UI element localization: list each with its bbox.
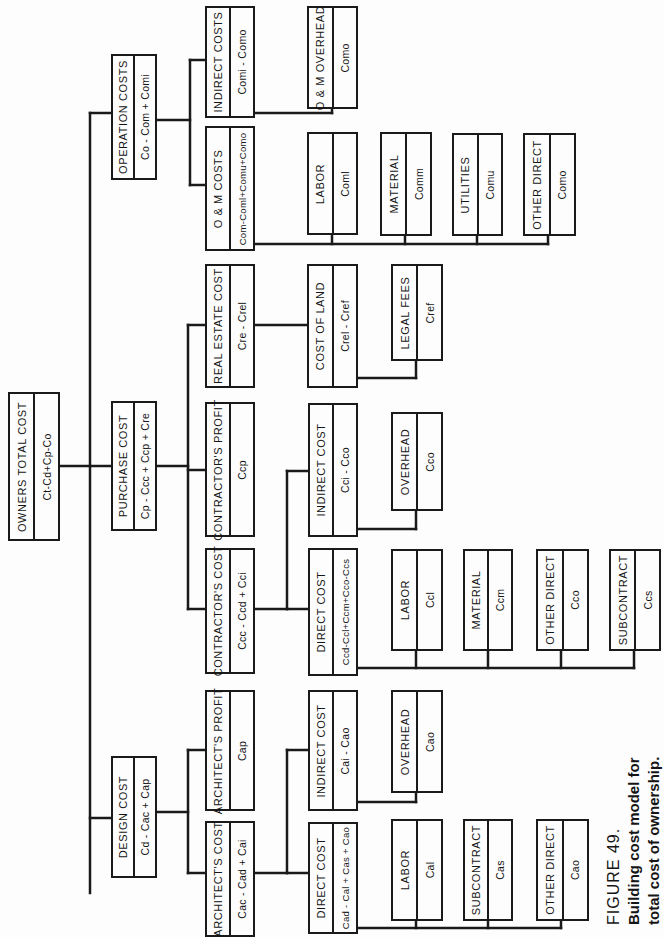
node-architects-profit: ARCHITECT'S PROFIT Cap — [205, 690, 255, 811]
node-real-estate-cost: REAL ESTATE COST Cre - Crel — [205, 264, 255, 388]
node-title: O & M COSTS — [212, 149, 224, 228]
node-formula: Ccl — [424, 592, 436, 608]
node-purchase-cost: PURCHASE COST Cp - Ccc + Ccp + Cre — [111, 401, 157, 531]
node-formula: Ccp — [236, 460, 248, 480]
node-title: LABOR — [399, 850, 411, 890]
node-formula: Como — [339, 43, 351, 72]
figure-caption: FIGURE 49. Building cost model for total… — [604, 757, 664, 925]
node-title: SUBCONTRACT — [470, 825, 482, 915]
node-title: ARCHITECT'S PROFIT — [212, 687, 224, 814]
node-formula: Comi - Como — [236, 29, 248, 94]
node-architects-cost: ARCHITECT'S COST Cac - Cad + Cai — [205, 821, 255, 937]
node-title: UTILITIES — [459, 156, 471, 213]
node-contractor-other-direct: OTHER DIRECT Cco — [536, 549, 589, 651]
node-formula: Cao — [424, 731, 436, 751]
node-formula: Ccc - Ccd + Cci — [236, 572, 248, 650]
node-om-costs: O & M COSTS Com-Coml+Comu+Como — [205, 126, 255, 251]
node-title: CONTRACTOR'S COST — [212, 546, 224, 677]
node-formula: Cp - Ccc + Ccp + Cre — [139, 413, 151, 519]
node-formula: Comu — [484, 170, 496, 199]
node-formula: Cci - Cco — [339, 447, 351, 493]
caption-line-1: Building cost model for — [624, 757, 644, 925]
node-title: OTHER DIRECT — [544, 555, 556, 645]
node-formula: Crel - Cref — [339, 300, 351, 352]
node-om-other-direct: OTHER DIRECT Como — [523, 133, 576, 236]
node-contractor-direct-cost: DIRECT COST Ccd-Ccl+Ccm+Cco-Ccs — [308, 548, 358, 676]
node-title: PURCHASE COST — [117, 415, 129, 518]
node-title: INDIRECT COST — [315, 423, 327, 516]
node-contractor-subcontract: SUBCONTRACT Ccs — [609, 549, 661, 651]
node-formula: Co - Com + Comi — [139, 74, 151, 160]
node-design-cost: DESIGN COST Cd - Cac + Cap — [111, 756, 157, 878]
node-contractor-labor: LABOR Ccl — [391, 549, 443, 651]
node-title: INDIRECT COST — [315, 704, 327, 797]
node-formula: Cas — [494, 860, 506, 880]
figure-number: FIGURE 49. — [604, 757, 624, 925]
node-title: OWNERS TOTAL COST — [16, 401, 28, 531]
node-formula: Como — [556, 170, 568, 199]
node-formula: Cac - Cad + Cai — [236, 839, 248, 919]
node-title: COST OF LAND — [314, 282, 326, 370]
node-formula: Ct-Cd+Cp-Co — [41, 433, 53, 500]
node-operation-indirect-costs: INDIRECT COSTS Comi - Como — [205, 6, 255, 118]
node-title: DIRECT COST — [315, 838, 327, 919]
node-om-labor: LABOR Coml — [307, 132, 358, 235]
node-formula: Cai - Cao — [339, 727, 351, 774]
node-formula: Cre - Crel — [236, 302, 248, 351]
node-title: OVERHEAD — [399, 428, 411, 495]
node-title: MATERIAL — [388, 155, 400, 214]
node-title: OTHER DIRECT — [531, 140, 543, 230]
node-title: OVERHEAD — [399, 708, 411, 775]
node-om-overhead: O & M OVERHEAD Como — [307, 6, 358, 109]
node-title: DESIGN COST — [117, 776, 129, 858]
node-architect-labor: LABOR Cal — [391, 819, 443, 921]
node-title: LABOR — [399, 580, 411, 620]
node-formula: Cco — [424, 452, 436, 472]
node-om-utilities: UTILITIES Comu — [452, 133, 503, 236]
node-legal-fees: LEGAL FEES Cref — [391, 264, 443, 361]
node-formula: Comm — [413, 168, 425, 200]
node-architect-overhead: OVERHEAD Cao — [391, 690, 443, 793]
node-formula: Cap — [236, 740, 248, 760]
node-owners-total-cost: OWNERS TOTAL COST Ct-Cd+Cp-Co — [8, 392, 60, 541]
node-title: OPERATION COSTS — [117, 60, 129, 174]
node-cost-of-land: COST OF LAND Crel - Cref — [307, 264, 358, 388]
node-title: O & M OVERHEAD — [314, 5, 326, 109]
node-title: INDIRECT COSTS — [212, 11, 224, 112]
node-formula: Ccs — [642, 591, 654, 610]
caption-line-2: total cost of ownership. — [644, 757, 664, 925]
node-formula: Cco — [569, 590, 581, 610]
node-contractor-overhead: OVERHEAD Cco — [391, 412, 443, 511]
node-contractors-cost: CONTRACTOR'S COST Ccc - Ccd + Cci — [205, 548, 255, 674]
node-title: REAL ESTATE COST — [212, 268, 224, 384]
node-formula: Ccd-Ccl+Ccm+Cco-Ccs — [340, 559, 351, 666]
node-formula: Cal — [424, 862, 436, 879]
node-formula: Cad - Cal + Cas + Cao — [340, 827, 351, 929]
node-title: ARCHITECT'S COST — [212, 821, 224, 937]
node-om-material: MATERIAL Comm — [380, 132, 432, 236]
node-formula: Cao — [569, 860, 581, 880]
node-title: SUBCONTRACT — [617, 555, 629, 645]
node-formula: Cref — [424, 302, 436, 323]
node-formula: Cd - Cac + Cap — [139, 779, 151, 856]
node-formula: Ccm — [494, 589, 506, 611]
node-title: LABOR — [314, 163, 326, 203]
node-operation-costs: OPERATION COSTS Co - Com + Comi — [111, 54, 157, 180]
node-contractors-profit: CONTRACTOR'S PROFIT Ccp — [205, 402, 255, 537]
node-architect-indirect-cost: INDIRECT COST Cai - Cao — [308, 690, 358, 811]
node-title: CONTRACTOR'S PROFIT — [212, 399, 224, 541]
node-contractor-indirect-cost: INDIRECT COST Cci - Cco — [308, 403, 358, 537]
node-architect-direct-cost: DIRECT COST Cad - Cal + Cas + Cao — [308, 822, 358, 934]
node-title: LEGAL FEES — [399, 276, 411, 349]
node-architect-other-direct: OTHER DIRECT Cao — [536, 819, 589, 921]
node-title: MATERIAL — [470, 571, 482, 630]
node-title: OTHER DIRECT — [544, 825, 556, 915]
node-formula: Coml — [339, 171, 351, 197]
node-architect-subcontract: SUBCONTRACT Cas — [463, 819, 513, 921]
node-formula: Com-Coml+Comu+Como — [237, 132, 248, 245]
node-title: DIRECT COST — [315, 572, 327, 653]
node-contractor-material: MATERIAL Ccm — [463, 549, 513, 651]
